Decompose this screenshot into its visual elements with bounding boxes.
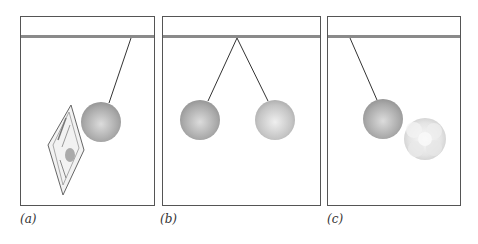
charged-ball — [81, 102, 121, 142]
cotton-ball-icon — [404, 118, 446, 160]
ball-right — [255, 100, 295, 140]
charged-ball — [363, 99, 403, 139]
figure-canvas — [0, 0, 478, 244]
ceiling-bar — [21, 35, 154, 38]
panel-a — [21, 17, 155, 206]
ceiling-bar — [328, 35, 460, 38]
panel-c-label: (c) — [327, 212, 343, 226]
panel-b — [163, 17, 321, 206]
panel-c — [328, 17, 461, 206]
ceiling-bar — [163, 35, 320, 38]
ball-left — [180, 100, 220, 140]
panel-a-label: (a) — [20, 212, 37, 226]
panel-b-label: (b) — [160, 212, 177, 226]
